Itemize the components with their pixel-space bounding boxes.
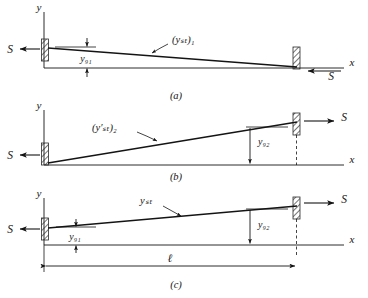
- panel-c-x-axis-label: x: [349, 233, 355, 245]
- panel-c-y-axis-label: y: [36, 187, 42, 199]
- panel-a-right-wall-support: [293, 47, 300, 69]
- panel-b-right-force-label: S: [341, 111, 347, 123]
- panel-a-curve-label: (yₛₜ)₁: [172, 34, 194, 46]
- panel-a-caption: (a): [170, 90, 183, 102]
- panel-a-curve-label-leader: [152, 44, 168, 53]
- panel-b-x-axis-label: x: [349, 153, 355, 165]
- panel-b-caption: (b): [170, 171, 183, 183]
- panel-b-right-wall-support: [293, 113, 300, 135]
- panel-b-left-force-label: S: [7, 149, 13, 161]
- panel-a-left-force-label: S: [7, 43, 13, 55]
- panel-b-curve-label: (y′ₛₜ)₂: [92, 122, 117, 134]
- panel-c-left-gap-label: y₉₁: [68, 231, 80, 242]
- panel-c-span-label: ℓ: [168, 252, 173, 264]
- panel-a-right-force-label: S: [328, 70, 334, 82]
- panel-b-gap-label: y₉₂: [257, 136, 270, 147]
- panel-a-gap-label: y₉₁: [79, 53, 91, 64]
- panel-c-caption: (c): [170, 279, 182, 291]
- panel-b: [20, 110, 344, 165]
- panel-b-y-axis-label: y: [36, 99, 42, 111]
- panel-c-left-force-label: S: [7, 223, 13, 235]
- panel-c-curve-label: yₛₜ: [139, 195, 153, 206]
- panel-c-curve-label-leader: [163, 206, 181, 216]
- panel-b-curve-label-leader: [137, 132, 157, 141]
- panel-c-left-wall-support: [42, 218, 49, 240]
- panel-c-right-gap-label: y₉₂: [257, 219, 270, 230]
- panel-c-right-force-label: S: [341, 193, 347, 205]
- panel-c-right-wall-support: [293, 197, 300, 219]
- beam-deflection-svg: y x S S y₉₁ (yₛₜ)₁ (a) y x S S y₉₂ (y′ₛₜ…: [0, 0, 368, 298]
- panel-a-left-wall-support: [42, 39, 49, 61]
- panel-a-y-axis-label: y: [36, 1, 42, 13]
- panel-a-x-axis-label: x: [349, 56, 355, 68]
- panel-b-left-wall-support: [42, 143, 49, 165]
- figure-container: y x S S y₉₁ (yₛₜ)₁ (a) y x S S y₉₂ (y′ₛₜ…: [0, 0, 368, 298]
